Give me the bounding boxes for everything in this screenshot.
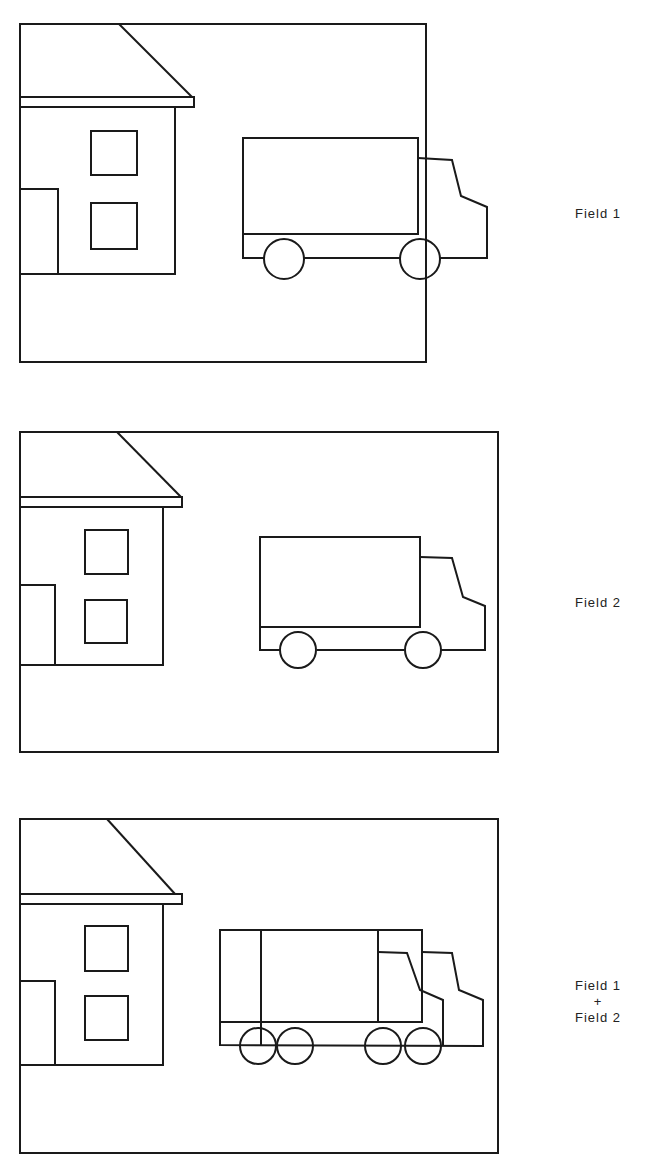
door (20, 981, 55, 1065)
frame (20, 24, 426, 362)
field-1-drawing (0, 20, 540, 370)
roof-eave (20, 894, 182, 904)
window-upper (85, 530, 128, 574)
truck-box-field1 (220, 930, 422, 1022)
combined-drawing (0, 815, 540, 1155)
truck-box (243, 138, 418, 234)
door (20, 585, 55, 665)
door (20, 189, 58, 274)
roof-eave (20, 497, 182, 507)
panel-field-1-plus-2 (0, 815, 540, 1155)
window-upper (85, 926, 128, 971)
wheel-front (400, 239, 440, 279)
roof-eave (20, 97, 194, 107)
window-upper (91, 131, 137, 175)
label-field-1-plus-2: Field 1 + Field 2 (548, 978, 648, 1026)
panel-field-1 (0, 20, 540, 370)
frame (20, 819, 498, 1153)
window-lower (85, 996, 128, 1040)
roof-slope (119, 24, 192, 97)
field-2-drawing (0, 430, 540, 755)
roof-slope (107, 819, 175, 894)
label-field-1: Field 1 (548, 206, 648, 222)
roof-slope (117, 432, 181, 497)
wheel-rear (280, 632, 316, 668)
window-lower (91, 203, 137, 249)
label-field-2: Field 2 (548, 595, 648, 611)
wheel-rear (264, 239, 304, 279)
truck-box (260, 537, 420, 627)
panel-field-2 (0, 430, 540, 755)
wheel-front (405, 632, 441, 668)
window-lower (85, 600, 127, 643)
